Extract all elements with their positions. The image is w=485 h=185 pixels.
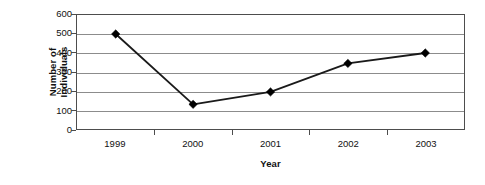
y-axis-tick-label: 500 bbox=[36, 28, 72, 38]
x-axis-tick-mark bbox=[232, 130, 233, 135]
x-axis-tick-label: 2001 bbox=[232, 138, 310, 150]
y-axis-tick-label: 200 bbox=[36, 86, 72, 96]
y-axis-tick-mark bbox=[71, 110, 76, 111]
y-axis-tick-label: 300 bbox=[36, 67, 72, 77]
y-axis-tick-mark bbox=[71, 130, 76, 131]
y-axis-tick-mark bbox=[71, 91, 76, 92]
y-axis-tick-mark bbox=[71, 72, 76, 73]
x-axis-tick-label: 1999 bbox=[76, 138, 154, 150]
x-axis-tick-mark bbox=[309, 130, 310, 135]
data-point-marker bbox=[344, 59, 352, 67]
series-line-number-of-individuals bbox=[77, 15, 464, 129]
x-axis-tick-mark bbox=[387, 130, 388, 135]
y-axis-tick-label: 0 bbox=[36, 125, 72, 135]
y-axis-tick-labels: 6005004003002001000 bbox=[36, 9, 72, 133]
x-axis-tick-label: 2000 bbox=[154, 138, 232, 150]
data-point-marker bbox=[266, 88, 274, 96]
y-axis-tick-label: 100 bbox=[36, 106, 72, 116]
y-axis-tick-mark bbox=[71, 33, 76, 34]
x-axis-tick-mark bbox=[154, 130, 155, 135]
y-axis-tick-mark bbox=[71, 14, 76, 15]
x-axis-tick-label: 2003 bbox=[387, 138, 465, 150]
y-axis-tick-mark bbox=[71, 52, 76, 53]
x-axis-tick-labels: 19992000200120022003 bbox=[76, 138, 465, 152]
plot-area bbox=[76, 14, 465, 130]
data-point-marker bbox=[421, 49, 429, 57]
line-chart: Number of Individuals 600500400300200100… bbox=[0, 0, 485, 185]
x-axis-tick-label: 2002 bbox=[309, 138, 387, 150]
y-axis-tick-label: 600 bbox=[36, 9, 72, 19]
x-axis-title: Year bbox=[76, 158, 465, 169]
y-axis-tick-label: 400 bbox=[36, 48, 72, 58]
